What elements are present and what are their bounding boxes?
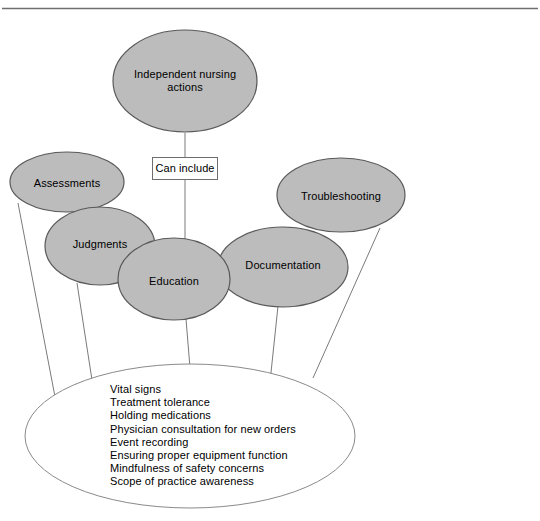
- node-independent-nursing-actions: [113, 30, 257, 132]
- list-item: Ensuring proper equipment function: [110, 449, 296, 462]
- list-item: Treatment tolerance: [110, 396, 296, 409]
- connector-documentation: [270, 306, 278, 382]
- node-assessments: [10, 152, 124, 212]
- node-troubleshooting: [277, 158, 405, 232]
- list-item: Physician consultation for new orders: [110, 423, 296, 436]
- node-education: [118, 238, 230, 320]
- can-include-box: [153, 158, 218, 180]
- connector-education: [186, 319, 190, 368]
- list-item: Scope of practice awareness: [110, 475, 296, 488]
- diagram-canvas: Independent nursing actions Can include …: [0, 0, 540, 521]
- detail-item-list: Vital signs Treatment tolerance Holding …: [110, 383, 296, 489]
- connector-judgments: [77, 283, 92, 380]
- node-documentation: [218, 227, 348, 307]
- list-item: Holding medications: [110, 409, 296, 422]
- list-item: Event recording: [110, 436, 296, 449]
- list-item: Vital signs: [110, 383, 296, 396]
- list-item: Mindfulness of safety concerns: [110, 462, 296, 475]
